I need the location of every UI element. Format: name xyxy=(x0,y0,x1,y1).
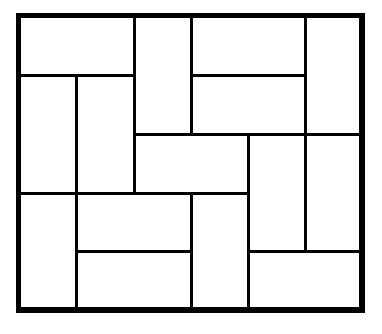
tile-vertical-2 xyxy=(133,13,193,136)
tile-horizontal-1 xyxy=(16,13,136,77)
tile-vertical-13 xyxy=(190,192,250,313)
tile-horizontal-3 xyxy=(190,13,307,77)
tile-vertical-4 xyxy=(304,13,365,136)
tile-vertical-9 xyxy=(247,133,307,253)
tile-vertical-5 xyxy=(16,74,78,195)
tile-vertical-11 xyxy=(16,192,78,313)
tile-horizontal-14 xyxy=(75,250,193,313)
tile-horizontal-12 xyxy=(75,192,193,253)
tile-vertical-6 xyxy=(75,74,136,195)
tile-horizontal-7 xyxy=(190,74,307,136)
tile-horizontal-15 xyxy=(247,250,365,313)
tile-horizontal-8 xyxy=(133,133,250,195)
tile-vertical-10 xyxy=(304,133,365,253)
tiling-diagram xyxy=(0,0,382,334)
